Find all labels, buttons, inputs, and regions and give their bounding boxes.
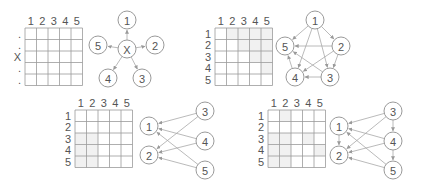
matrix-column-label: 4: [305, 97, 311, 109]
matrix-cell-shaded: [268, 133, 280, 145]
node-label: 5: [390, 165, 396, 177]
matrix-row-label: 4: [258, 144, 264, 156]
matrix-row-label: 2: [258, 121, 264, 133]
node-label: 5: [282, 41, 288, 53]
graph: 12345: [140, 102, 214, 179]
matrix-column-label: 1: [28, 15, 34, 27]
graph-node-5: 5: [384, 161, 402, 179]
graph-node-3: 3: [133, 69, 151, 87]
edge-2-to-3: [333, 54, 338, 67]
matrix-cell-shaded: [250, 40, 262, 52]
graph-node-5: 5: [276, 37, 294, 55]
node-label: 2: [336, 150, 342, 162]
matrix-column-label: 4: [112, 97, 118, 109]
node-label: 5: [95, 40, 101, 52]
matrix-cell-shaded: [314, 145, 326, 157]
matrix-row-label: .: [18, 39, 21, 51]
matrix-cell-shaded: [261, 51, 273, 63]
matrix-row-label: .: [18, 74, 21, 86]
adjacency-matrix: 1234512345: [65, 97, 133, 168]
matrix-column-label: 3: [51, 15, 57, 27]
matrix-row-label: 1: [258, 110, 264, 122]
panel-pentagon: 123451234512345: [205, 11, 350, 86]
matrix-cell-shaded: [280, 133, 292, 145]
edge-X-to-2: [136, 46, 145, 47]
edge-3-to-1: [349, 113, 385, 123]
edge-4-to-2: [349, 143, 385, 152]
edge-1-to-2: [321, 26, 334, 39]
matrix-column-label: 5: [124, 97, 130, 109]
matrix-row-label: .: [18, 28, 21, 40]
graph-node-2: 2: [332, 37, 350, 55]
edge-5-to-2: [349, 158, 385, 168]
matrix-column-label: 1: [78, 97, 84, 109]
matrix-cell-shaded: [261, 63, 273, 75]
matrix-row-label: X: [14, 51, 22, 63]
edge-X-to-4: [113, 57, 122, 70]
matrix-row-label: .: [18, 62, 21, 74]
node-label: 2: [146, 150, 152, 162]
node-label: X: [123, 44, 131, 56]
matrix-column-label: 5: [74, 15, 80, 27]
panel-star: 12345..X..X12345: [14, 11, 164, 87]
node-label: 3: [202, 106, 208, 118]
matrix-cell-shaded: [87, 156, 99, 168]
graph-node-4: 4: [196, 132, 214, 150]
node-label: 1: [146, 121, 152, 133]
graph-node-3: 3: [384, 102, 402, 120]
edge-4-to-1: [159, 129, 197, 139]
node-label: 2: [152, 40, 158, 52]
edge-1-to-5: [293, 26, 309, 40]
graph-node-3: 3: [321, 68, 339, 86]
matrix-cell-shaded: [303, 133, 315, 145]
matrix-column-label: 2: [229, 15, 235, 27]
matrix-cell-shaded: [75, 145, 87, 157]
matrix-column-label: 2: [89, 97, 95, 109]
matrix-column-label: 3: [294, 97, 300, 109]
matrix-column-label: 2: [282, 97, 288, 109]
matrix-row-label: 3: [258, 133, 264, 145]
graph-node-X: X: [118, 40, 136, 58]
graph: 12345: [330, 102, 402, 179]
graph-node-1: 1: [118, 11, 136, 29]
node-label: 4: [105, 73, 111, 85]
graph-node-5: 5: [196, 161, 214, 179]
matrix-cell-shaded: [280, 110, 292, 122]
edge-X-to-3: [131, 57, 137, 69]
diagram-canvas: 12345..X..X12345123451234512345123451234…: [0, 0, 421, 190]
node-label: 4: [390, 136, 396, 148]
matrix-column-label: 3: [241, 15, 247, 27]
graph-node-5: 5: [89, 36, 107, 54]
matrix-row-label: 1: [205, 28, 211, 40]
matrix-cell-shaded: [227, 28, 239, 40]
matrix-cell-shaded: [75, 133, 87, 145]
matrix-row-label: 3: [205, 51, 211, 63]
graph-node-4: 4: [286, 68, 304, 86]
graph: 12345: [276, 11, 350, 86]
edge-1-to-4: [298, 28, 312, 67]
graph-node-1: 1: [330, 117, 348, 135]
matrix-cell-shaded: [87, 133, 99, 145]
edge-X-to-5: [108, 46, 118, 47]
edge-1-to-3: [317, 29, 327, 68]
matrix-row-label: 5: [205, 74, 211, 86]
matrix-row-label: 3: [65, 133, 71, 145]
matrix-row-label: 5: [258, 156, 264, 168]
adjacency-matrix: 12345..X..: [14, 15, 83, 86]
graph-node-2: 2: [146, 36, 164, 54]
node-label: 4: [292, 72, 298, 84]
graph-node-1: 1: [306, 11, 324, 29]
edge-5-to-1: [157, 132, 198, 164]
matrix-cell-shaded: [238, 40, 250, 52]
graph-node-1: 1: [140, 117, 158, 135]
matrix-column-label: 3: [101, 97, 107, 109]
matrix-row-label: 2: [65, 121, 71, 133]
node-label: 3: [390, 106, 396, 118]
matrix-column-label: 5: [317, 97, 323, 109]
matrix-row-label: 4: [65, 144, 71, 156]
node-label: 4: [202, 136, 208, 148]
node-label: 3: [139, 73, 145, 85]
matrix-cell-shaded: [261, 28, 273, 40]
edge-4-to-5: [288, 56, 292, 69]
matrix-column-label: 1: [218, 15, 224, 27]
